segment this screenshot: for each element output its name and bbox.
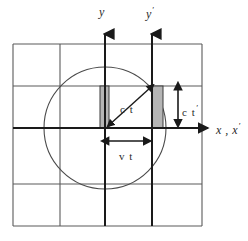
physics-diagram-figure: y y′ x , x′ c t c t′ v t [0, 0, 248, 241]
y-prime-mark: ′ [152, 5, 154, 15]
ct-prime-label: c t′ [182, 104, 199, 118]
diagram-canvas [0, 0, 248, 241]
vt-label: v t [119, 151, 133, 162]
grid-lines [13, 44, 202, 226]
ct-prime-label-text: c t [182, 106, 196, 118]
x-axis-label-text: x , x [216, 123, 238, 137]
x-axis-label: x , x′ [216, 122, 241, 136]
ct-label: c t [120, 104, 134, 115]
y-prime-axis-label: y′ [146, 6, 154, 20]
x-prime-mark: ′ [238, 121, 240, 131]
ct-prime-mark: ′ [196, 103, 199, 113]
shaded-bar-right [152, 86, 163, 128]
y-axis-label: y [99, 6, 105, 18]
